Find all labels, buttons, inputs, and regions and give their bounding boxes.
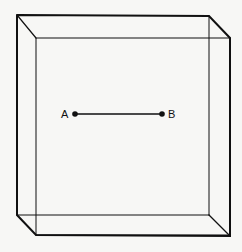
label-b: B bbox=[168, 108, 175, 120]
diag-top-left bbox=[17, 15, 36, 38]
point-b bbox=[159, 111, 165, 117]
box-diagram: A B bbox=[0, 0, 242, 252]
inner-frame bbox=[36, 38, 230, 235]
outer-frame bbox=[17, 15, 230, 236]
point-a bbox=[72, 111, 78, 117]
diag-bottom-right bbox=[209, 215, 230, 236]
diagram-canvas: A B bbox=[0, 0, 242, 252]
label-a: A bbox=[61, 108, 69, 120]
